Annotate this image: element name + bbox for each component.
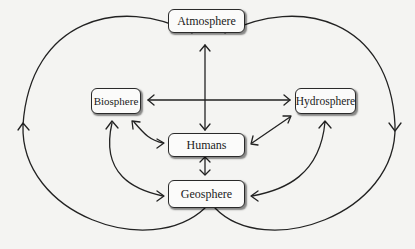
hydrosphere-node: Hydrosphere bbox=[295, 88, 356, 114]
biosphere-node: Biosphere bbox=[91, 88, 141, 114]
hydrosphere-humans-line bbox=[252, 117, 290, 143]
atmosphere-node: Atmosphere bbox=[168, 9, 245, 33]
hydrosphere-label: Hydrosphere bbox=[296, 95, 355, 107]
biosphere-label: Biosphere bbox=[94, 95, 139, 107]
atmosphere-label: Atmosphere bbox=[177, 14, 236, 29]
connector-layer bbox=[0, 0, 415, 249]
humans-label: Humans bbox=[187, 138, 227, 153]
geosphere-node: Geosphere bbox=[168, 180, 245, 208]
hydrosphere-geosphere-line bbox=[252, 122, 325, 196]
biosphere-geosphere-line bbox=[110, 123, 163, 196]
humans-node: Humans bbox=[168, 133, 245, 157]
geosphere-label: Geosphere bbox=[181, 187, 232, 202]
earth-systems-diagram: Atmosphere Biosphere Hydrosphere Humans … bbox=[0, 0, 415, 249]
